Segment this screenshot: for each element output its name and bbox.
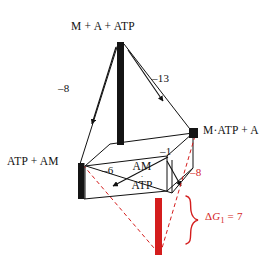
edge-top-right-front xyxy=(124,44,193,133)
node-label-am-atp: AM · ATP xyxy=(126,161,158,191)
bar-top-energy xyxy=(117,42,124,145)
brace-path xyxy=(186,196,198,244)
red-curly-brace xyxy=(186,196,198,244)
bar-left-energy xyxy=(78,163,85,199)
edge-top-left-front xyxy=(80,44,118,164)
edge-bottomface-front xyxy=(84,191,167,199)
bar-red-deltaG xyxy=(155,198,162,255)
red-dashed-projections xyxy=(83,136,195,255)
edge-label-minus6: –6 xyxy=(102,165,113,177)
g-equals-value: = 7 xyxy=(225,210,243,222)
edge-label-minus8-left: –8 xyxy=(58,83,69,95)
edge-label-minus8-red: –8 xyxy=(190,167,201,179)
bracket-label-deltaG: ΔG1 = 7 xyxy=(205,211,243,226)
node-label-right: M·ATP + A xyxy=(203,124,259,136)
am-atp-line2: ATP xyxy=(131,179,152,191)
node-label-top: M + A + ATP xyxy=(71,20,135,32)
edge-label-minus13: –13 xyxy=(152,73,169,85)
arrow-minus8-top-left xyxy=(92,47,116,124)
bar-right-energy xyxy=(189,128,198,138)
edge-label-minus1: –1 xyxy=(160,146,171,158)
node-label-left: ATP + AM xyxy=(7,155,59,167)
free-energy-cycle-diagram: M + A + ATP M·ATP + A ATP + AM AM · ATP … xyxy=(0,0,275,270)
arrow-minus1-right-down xyxy=(167,161,181,186)
edge-topface-left xyxy=(85,144,110,166)
